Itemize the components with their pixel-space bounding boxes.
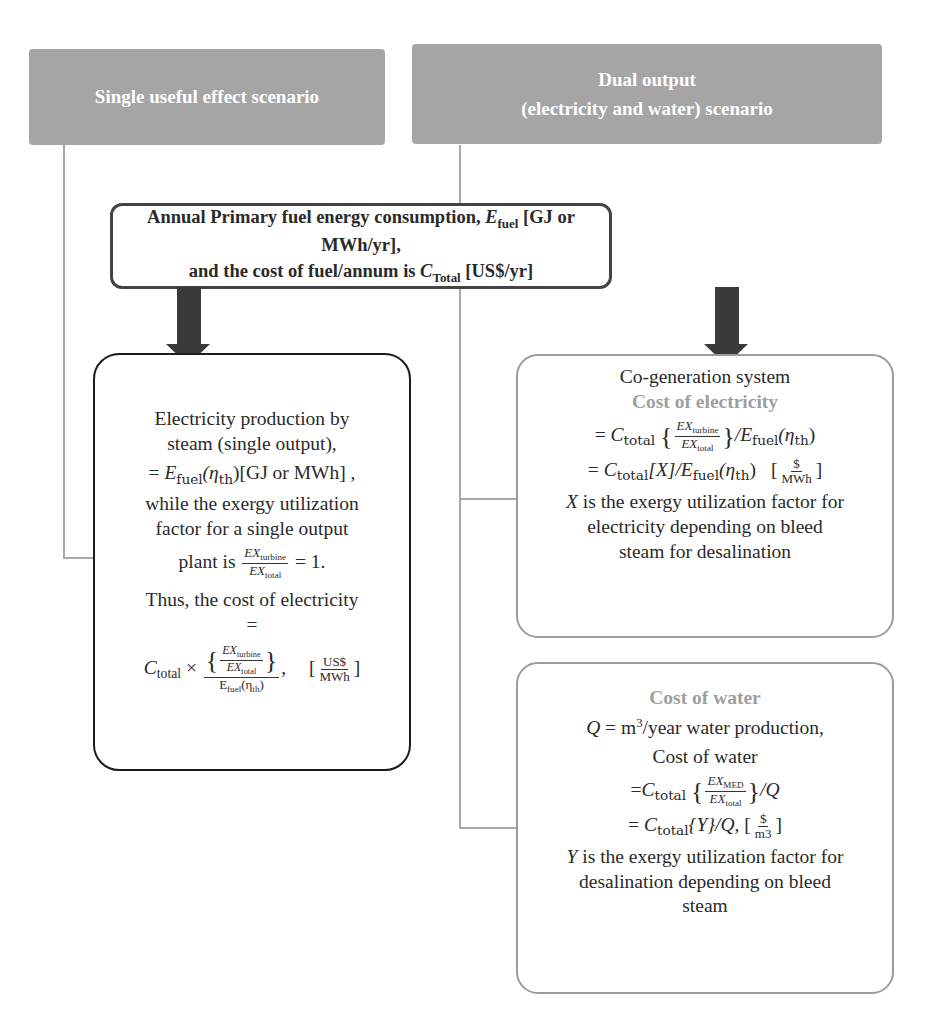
cogen-subtitle: Cost of electricity [518, 390, 892, 415]
connector-left-vertical [63, 145, 65, 559]
cogen-desc-line2: electricity depending on bleed [518, 515, 892, 540]
water-title: Cost of water [518, 686, 892, 711]
water-q-definition: Q = m3/year water production, [518, 715, 892, 741]
unit-fraction: US$MWh [317, 655, 351, 683]
cogen-desc-line1: X is the exergy utilization factor for [518, 490, 892, 515]
water-desc-line1: Y is the exergy utilization factor for [518, 845, 892, 870]
single-output-box: Electricity production by steam (single … [93, 353, 411, 771]
connector-right-to-cogen [459, 498, 517, 500]
single-equals: = [95, 613, 409, 638]
fuel-consumption-box: Annual Primary fuel energy consumption, … [110, 203, 612, 289]
header-single-label: Single useful effect scenario [95, 82, 319, 111]
cogen-title: Co-generation system [518, 365, 892, 390]
single-desc-line2: steam (single output), [95, 432, 409, 457]
single-energy-equation: = Efuel(ηth)[GJ or MWh] , [95, 461, 409, 488]
header-single-scenario: Single useful effect scenario [29, 49, 385, 145]
connector-right-to-water [459, 827, 517, 829]
cost-fraction: {EXturbineEXtotal} Efuel(ηth) [204, 644, 279, 694]
water-med-fraction: EXMEDEXtotal [705, 774, 745, 808]
fuel-line-2: and the cost of fuel/annum is CTotal [US… [113, 259, 609, 287]
water-equation-1: =Ctotal {EXMEDEXtotal}/Q [518, 774, 892, 808]
cogen-equation-1: = Ctotal {EXturbineEXtotal}/Efuel(ηth) [518, 419, 892, 453]
single-desc-line6: Thus, the cost of electricity [95, 588, 409, 613]
water-equation-2: = Ctotal{Y}/Q, [$m3] [518, 812, 892, 840]
water-unit-fraction: $m3 [753, 812, 774, 840]
cogen-equation-2: = Ctotal[X]/Efuel(ηth) [$MWh] [518, 457, 892, 485]
header-dual-scenario: Dual output (electricity and water) scen… [412, 44, 882, 144]
single-utilization-equation: plant is EXturbine EXtotal = 1. [95, 546, 409, 580]
header-dual-line2: (electricity and water) scenario [521, 94, 773, 123]
single-desc-line4: factor for a single output [95, 517, 409, 542]
cogen-turbine-fraction: EXturbineEXtotal [675, 419, 721, 453]
fuel-line-1: Annual Primary fuel energy consumption, … [113, 205, 609, 259]
cogeneration-box: Co-generation system Cost of electricity… [516, 354, 894, 638]
turbine-ratio-fraction: EXturbine EXtotal [242, 546, 288, 580]
cogen-desc-line3: steam for desalination [518, 540, 892, 565]
single-desc-line3: while the exergy utilization [95, 492, 409, 517]
cogen-unit-fraction: $MWh [779, 457, 813, 485]
water-cost-box: Cost of water Q = m3/year water producti… [516, 662, 894, 994]
water-line2: Cost of water [518, 745, 892, 770]
water-desc-line3: steam [518, 894, 892, 919]
connector-left-horizontal [63, 557, 95, 559]
single-desc-line1: Electricity production by [95, 407, 409, 432]
header-dual-line1: Dual output [598, 65, 696, 94]
water-desc-line2: desalination depending on bleed [518, 870, 892, 895]
single-cost-equation: Ctotal × {EXturbineEXtotal} Efuel(ηth) ,… [95, 644, 409, 694]
